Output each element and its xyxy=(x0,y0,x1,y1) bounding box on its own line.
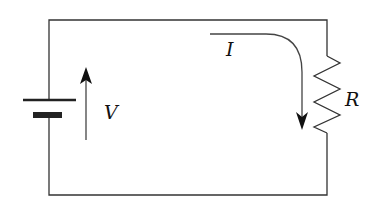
circuit-wires xyxy=(49,20,327,195)
voltage-arrow-icon xyxy=(80,67,92,140)
current-arrow-icon xyxy=(210,34,308,130)
resistance-label: R xyxy=(344,88,359,110)
bottom-wire xyxy=(49,115,327,195)
battery-icon xyxy=(23,100,76,118)
top-wire xyxy=(49,20,327,100)
battery-short-plate xyxy=(33,112,62,118)
resistor-icon xyxy=(314,56,340,133)
current-label: I xyxy=(225,38,234,60)
circuit-diagram: V I R xyxy=(0,0,386,211)
voltage-label: V xyxy=(104,101,120,123)
